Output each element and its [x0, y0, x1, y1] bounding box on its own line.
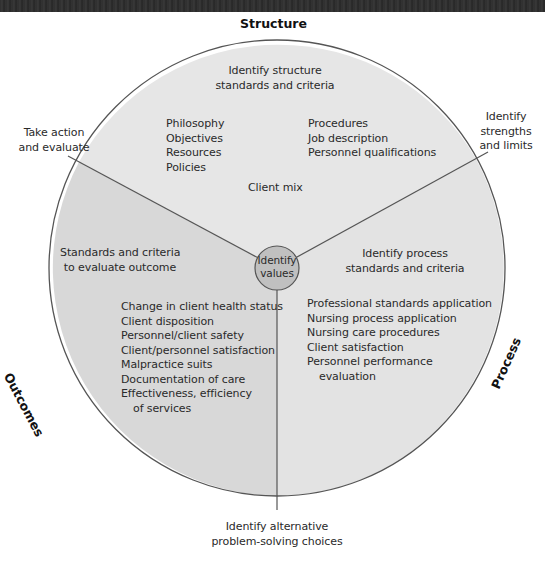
list-item: Objectives — [166, 132, 224, 147]
list-item: Personnel performance — [307, 355, 492, 370]
structure-heading-line: Identify structure — [205, 64, 345, 79]
list-item: Personnel qualifications — [308, 146, 436, 161]
list-item: Resources — [166, 146, 224, 161]
label-line: and evaluate — [14, 141, 94, 156]
list-item: Nursing care procedures — [307, 326, 492, 341]
center-label: Identify values — [252, 254, 302, 280]
process-heading: Identify process standards and criteria — [345, 247, 465, 276]
process-heading-line: Identify process — [345, 247, 465, 262]
structure-items-right: Procedures Job description Personnel qua… — [308, 117, 436, 161]
list-item: Nursing process application — [307, 312, 492, 327]
structure-items-left: Philosophy Objectives Resources Policies — [166, 117, 224, 175]
list-item: Client disposition — [121, 315, 283, 330]
outcomes-heading: Standards and criteria to evaluate outco… — [60, 246, 180, 275]
list-item: Job description — [308, 132, 436, 147]
label-alternative-choices: Identify alternative problem-solving cho… — [197, 520, 357, 549]
list-item: Philosophy — [166, 117, 224, 132]
list-item: evaluation — [307, 370, 492, 385]
outcomes-heading-line: to evaluate outcome — [60, 261, 180, 276]
list-item: Effectiveness, efficiency — [121, 387, 283, 402]
structure-heading-line: standards and criteria — [205, 79, 345, 94]
label-line: Identify — [474, 110, 538, 125]
label-line: and limits — [474, 139, 538, 154]
outcomes-items: Change in client health status Client di… — [121, 300, 283, 416]
list-item: of services — [121, 402, 283, 417]
structure-title: Structure — [240, 16, 307, 31]
label-strengths-limits: Identify strengths and limits — [474, 110, 538, 154]
list-item: Policies — [166, 161, 224, 176]
process-items: Professional standards application Nursi… — [307, 297, 492, 384]
list-item: Professional standards application — [307, 297, 492, 312]
label-line: problem-solving choices — [197, 535, 357, 550]
label-line: Identify alternative — [197, 520, 357, 535]
list-item: Change in client health status — [121, 300, 283, 315]
list-item: Client/personnel satisfaction — [121, 344, 283, 359]
label-take-action: Take action and evaluate — [14, 126, 94, 155]
list-item: Malpractice suits — [121, 358, 283, 373]
structure-footer: Client mix — [248, 181, 303, 196]
list-item: Procedures — [308, 117, 436, 132]
list-item: Client satisfaction — [307, 341, 492, 356]
outcomes-heading-line: Standards and criteria — [60, 246, 180, 261]
list-item: Personnel/client safety — [121, 329, 283, 344]
list-item: Documentation of care — [121, 373, 283, 388]
process-heading-line: standards and criteria — [345, 262, 465, 277]
center-label-line: values — [252, 267, 302, 280]
center-label-line: Identify — [252, 254, 302, 267]
label-line: strengths — [474, 125, 538, 140]
label-line: Take action — [14, 126, 94, 141]
structure-heading: Identify structure standards and criteri… — [205, 64, 345, 93]
